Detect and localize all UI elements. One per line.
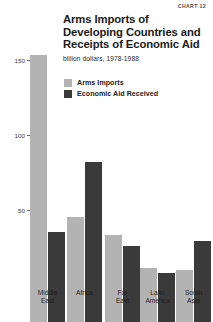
bar-africa-arms-imports (67, 217, 84, 322)
plot-area: 15010050 Middle EastAfricaFar EastLatin … (0, 0, 212, 322)
bars-layer (0, 37, 212, 322)
bar-south-asia-economic-aid-received (194, 241, 211, 322)
bar-middle-east-economic-aid-received (48, 232, 65, 322)
bar-middle-east-arms-imports (30, 55, 47, 322)
bar-far-east-arms-imports (105, 235, 122, 322)
chart-figure: CHART 12 Arms Imports of Developing Coun… (0, 0, 212, 322)
bar-far-east-economic-aid-received (123, 246, 140, 322)
x-axis-label-south-asia: South Asia (168, 289, 213, 304)
